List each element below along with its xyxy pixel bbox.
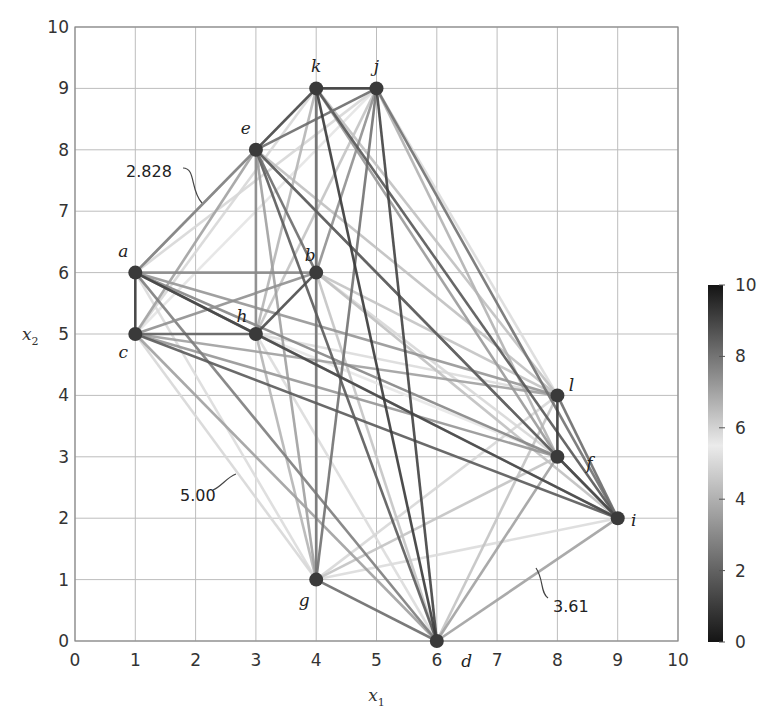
annotation-label: 2.828	[126, 162, 172, 181]
node-label-d: d	[461, 651, 472, 671]
node-c	[128, 327, 142, 341]
node-label-c: c	[119, 342, 129, 362]
x-axis-label-text: x	[368, 685, 378, 705]
node-h	[249, 327, 263, 341]
node-label-e: e	[241, 118, 251, 138]
y-tick-label: 0	[58, 631, 69, 651]
colorbar: 0246810	[708, 275, 757, 652]
colorbar-tick-label: 4	[735, 489, 746, 509]
x-tick-label: 5	[371, 650, 382, 670]
x-tick-label: 1	[130, 650, 141, 670]
annotation-leader	[183, 168, 202, 203]
node-i	[611, 511, 625, 525]
node-label-g: g	[299, 590, 310, 610]
node-label-k: k	[311, 56, 321, 76]
x-tick-label: 0	[70, 650, 81, 670]
y-tick-label: 1	[58, 570, 69, 590]
annotation-leader	[536, 568, 548, 598]
node-d	[430, 634, 444, 648]
x-tick-label: 8	[552, 650, 563, 670]
x-tick-label: 10	[667, 650, 689, 670]
annotation-leader	[213, 474, 236, 490]
x-tick-label: 9	[612, 650, 623, 670]
node-label-j: j	[370, 56, 380, 76]
node-k	[309, 81, 323, 95]
colorbar-tick-label: 0	[735, 632, 746, 652]
x-tick-label: 6	[431, 650, 442, 670]
y-tick-label: 9	[58, 78, 69, 98]
node-label-h: h	[236, 306, 247, 326]
node-l	[550, 388, 564, 402]
annotation-label: 3.61	[553, 597, 589, 616]
y-tick-label: 4	[58, 385, 69, 405]
x-tick-label: 4	[311, 650, 322, 670]
node-b	[309, 266, 323, 280]
node-j	[370, 81, 384, 95]
y-tick-label: 2	[58, 508, 69, 528]
y-tick-label: 8	[58, 140, 69, 160]
colorbar-gradient	[708, 285, 723, 642]
node-label-l: l	[569, 375, 574, 395]
x-tick-label: 7	[492, 650, 503, 670]
colorbar-tick-label: 2	[735, 561, 746, 581]
colorbar-tick-label: 8	[735, 346, 746, 366]
node-label-a: a	[118, 241, 128, 261]
x-axis-label-subscript: 1	[378, 696, 385, 709]
node-e	[249, 143, 263, 157]
x-tick-label: 3	[250, 650, 261, 670]
y-axis-label-text: x	[22, 324, 32, 344]
y-tick-label: 6	[58, 263, 69, 283]
edge-b-j	[316, 88, 376, 272]
node-label-i: i	[631, 510, 636, 530]
annotation-label: 5.00	[180, 486, 216, 505]
y-tick-label: 10	[47, 17, 69, 37]
network-chart: abcdefghijkl 012345678910012345678910 2.…	[0, 0, 777, 726]
node-f	[550, 450, 564, 464]
x-axis-label: x1	[368, 685, 385, 709]
y-axis-label: x2	[22, 324, 39, 348]
colorbar-tick-label: 10	[735, 275, 757, 295]
edge-i-k	[316, 88, 618, 518]
node-label-b: b	[305, 245, 316, 265]
node-g	[309, 573, 323, 587]
y-tick-label: 7	[58, 201, 69, 221]
node-a	[128, 266, 142, 280]
x-tick-label: 2	[190, 650, 201, 670]
y-axis-label-subscript: 2	[32, 335, 39, 348]
y-tick-label: 5	[58, 324, 69, 344]
colorbar-tick-label: 6	[735, 418, 746, 438]
y-tick-label: 3	[58, 447, 69, 467]
